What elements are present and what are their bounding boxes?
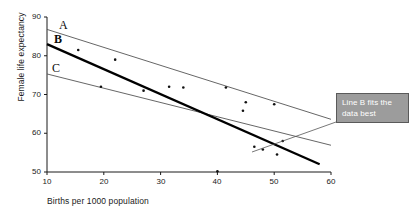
data-point-group (77, 49, 284, 173)
x-tick-label-40: 40 (207, 177, 227, 186)
callout-leader-line (252, 122, 336, 152)
data-point (273, 103, 276, 106)
data-point (168, 85, 171, 88)
x-axis-label: Births per 1000 population (47, 196, 149, 206)
data-point (245, 101, 248, 104)
y-tick-label-80: 80 (23, 51, 41, 60)
data-point (242, 109, 245, 112)
callout-line-1: Line B fits the (342, 97, 404, 108)
y-tick-label-60: 60 (23, 128, 41, 137)
data-point (182, 86, 185, 89)
x-tick-label-10: 10 (37, 177, 57, 186)
chart-figure: Female life expectancy Births per 1000 p… (0, 0, 415, 216)
x-tick-label-50: 50 (264, 177, 284, 186)
data-point (216, 170, 219, 173)
data-point (225, 86, 228, 89)
x-tick-label-30: 30 (151, 177, 171, 186)
data-point (114, 58, 117, 61)
data-point (100, 85, 103, 88)
data-point (142, 89, 145, 92)
series-label-a: A (59, 19, 68, 31)
y-tick-label-50: 50 (23, 167, 41, 176)
callout-line-2: data best (342, 108, 404, 119)
y-tick-label-90: 90 (23, 12, 41, 21)
y-tick-label-70: 70 (23, 90, 41, 99)
regression-line-b (47, 44, 320, 164)
data-point (276, 153, 279, 156)
series-label-c: C (52, 62, 60, 74)
x-tick-label-20: 20 (94, 177, 114, 186)
callout-box: Line B fits the data best (336, 93, 409, 123)
regression-line-c (47, 74, 331, 145)
x-tick-label-60: 60 (321, 177, 341, 186)
data-point (253, 146, 256, 149)
series-label-b: B (54, 33, 62, 45)
data-point (77, 49, 80, 52)
